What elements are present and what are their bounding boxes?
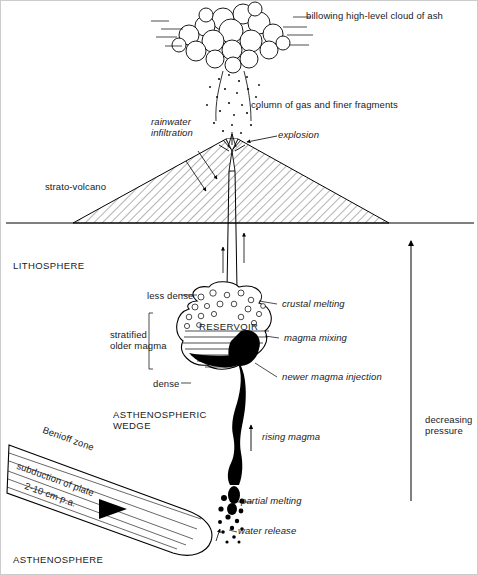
- eruption-column: [216, 71, 251, 121]
- strato-volcano-cone: [73, 139, 389, 223]
- diagram-page: billowing high-level cloud of ash column…: [0, 0, 478, 575]
- label-partial-melting: partial melting: [241, 495, 302, 506]
- conduit-flow-arrows: [223, 233, 244, 273]
- label-magma-mixing: magma mixing: [284, 332, 347, 343]
- label-eruption-column: column of gas and finer fragments: [251, 99, 398, 110]
- label-asthenospheric-wedge: ASTHENOSPHERIC WEDGE: [113, 409, 207, 431]
- explosion-pointer: [247, 136, 277, 142]
- label-strato-volcano: strato-volcano: [45, 181, 106, 192]
- label-asthenosphere: ASTHENOSPHERE: [13, 554, 103, 565]
- ash-cloud: [172, 2, 290, 73]
- label-newer-magma-injection: newer magma injection: [282, 371, 382, 382]
- subducting-slab: [7, 445, 212, 555]
- label-rainwater-infiltration: rainwater infiltration: [151, 116, 193, 138]
- label-decreasing-pressure: decreasing pressure: [425, 414, 472, 436]
- label-stratified-older-magma: stratified older magma: [110, 329, 167, 351]
- label-less-dense: less dense: [147, 290, 193, 301]
- label-lithosphere: LITHOSPHERE: [13, 260, 84, 271]
- label-explosion: explosion: [278, 129, 319, 140]
- label-billowing-cloud: billowing high-level cloud of ash: [306, 10, 443, 21]
- label-reservoir: RESERVOIR: [199, 321, 258, 332]
- water-release-arrows: [216, 529, 220, 541]
- newer-magma-injection-blob: [227, 330, 260, 515]
- label-water-release: water release: [238, 525, 296, 536]
- label-dense: dense: [153, 378, 179, 389]
- label-crustal-melting: crustal melting: [282, 298, 345, 309]
- label-rising-magma: rising magma: [262, 431, 320, 442]
